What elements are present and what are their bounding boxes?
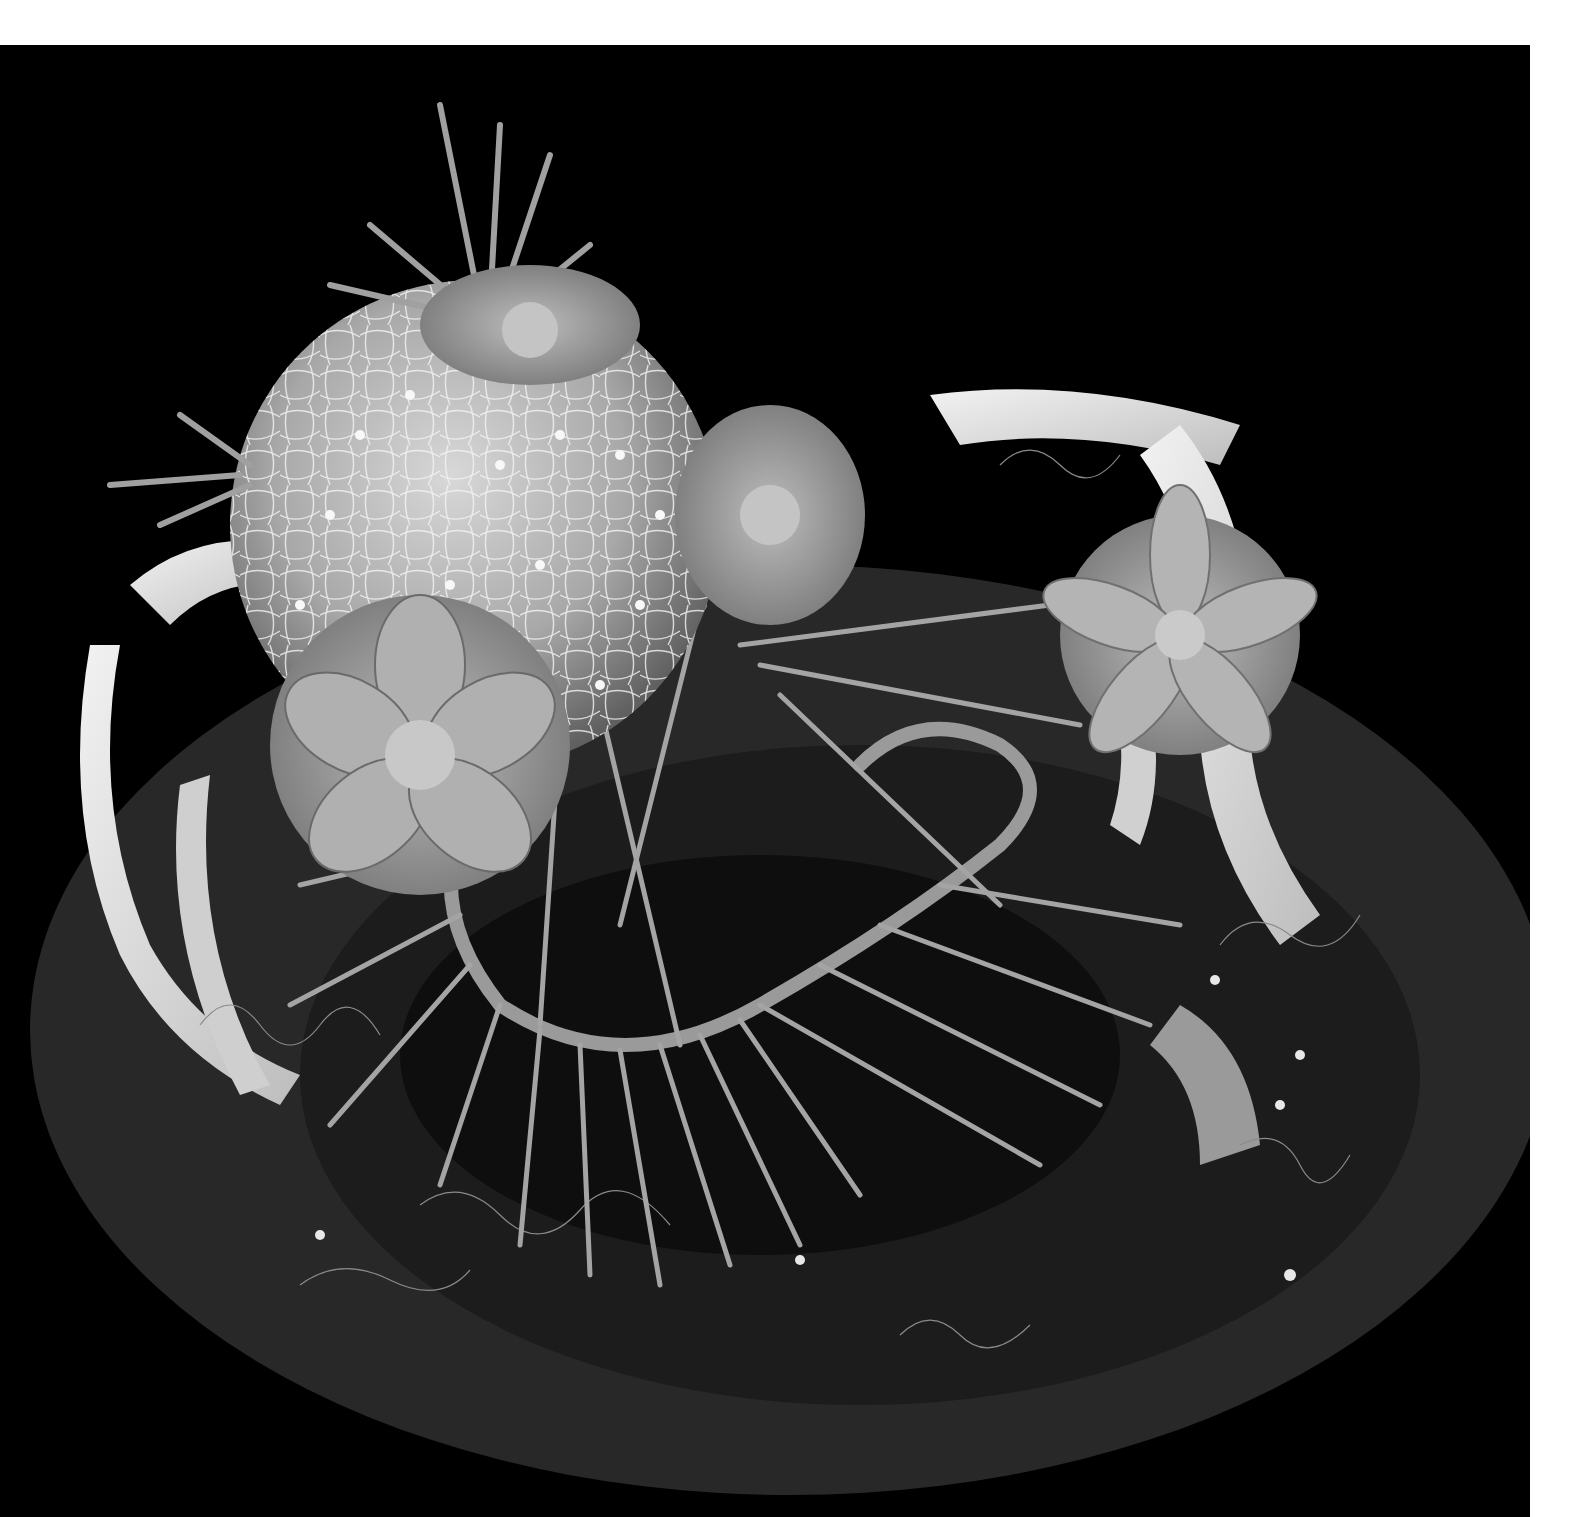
echeveria-top [420,265,640,385]
arrangement-illustration [0,45,1530,1517]
photo [0,45,1530,1517]
platter [30,565,1530,1495]
echeveria-center [675,405,865,625]
